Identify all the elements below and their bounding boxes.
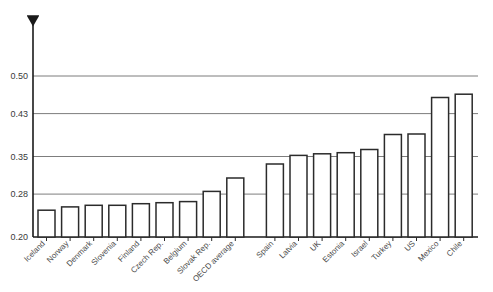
bar [408,134,425,237]
bar [337,153,354,237]
category-label: Spain [254,239,275,260]
bar-chart-figure: 0.200.280.350.430.50 IcelandNorwayDenmar… [0,0,493,292]
chart-canvas: 0.200.280.350.430.50 IcelandNorwayDenmar… [0,0,493,292]
category-label: Iceland [22,239,47,264]
bar [156,203,173,237]
category-label: Israel [350,239,370,259]
y-tick-label: 0.50 [10,71,28,81]
bar [38,210,55,237]
category-label: Slovenia [90,239,118,267]
category-label: Chile [445,239,465,259]
category-label: Latvia [277,239,299,261]
category-label: Estonia [321,239,347,265]
bar [227,178,244,237]
category-label: OECD average [191,239,236,284]
bar [132,204,149,237]
bars-group [38,94,472,237]
bar [432,98,449,238]
category-label: Denmark [65,238,95,268]
y-tick-label: 0.43 [10,109,28,119]
y-tick-label: 0.35 [10,152,28,162]
bar [85,205,102,237]
bar [203,191,220,237]
bar [62,207,79,237]
category-label: UK [308,239,323,254]
category-label: Mexico [416,239,441,264]
category-label: Turkey [370,239,393,262]
bar [384,135,401,238]
bar [180,202,197,237]
y-tick-label: 0.20 [10,232,28,242]
y-axis-tick-labels: 0.200.280.350.430.50 [10,71,28,242]
bar [361,150,378,238]
y-tick-label: 0.28 [10,189,28,199]
bar [314,154,331,237]
category-label: US [403,239,417,253]
bar [455,94,472,237]
bar [266,164,283,237]
bar [290,155,307,237]
bar [109,205,126,237]
category-labels-group: IcelandNorwayDenmarkSloveniaFinlandCzech… [22,238,464,283]
